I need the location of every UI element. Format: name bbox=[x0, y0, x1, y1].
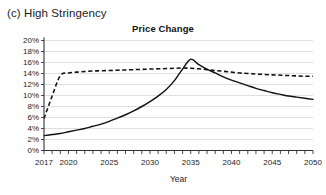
y-axis-tick-labels: 0%2%4%6%8%10%12%14%16%18%20% bbox=[23, 36, 39, 155]
x-axis-title: Year bbox=[170, 174, 187, 184]
y-tick-label: 0% bbox=[27, 146, 39, 155]
y-tick-label: 6% bbox=[27, 113, 39, 122]
gridlines bbox=[41, 41, 313, 151]
x-axis-tick-labels: 20172020202520302035204020452050 bbox=[35, 158, 322, 167]
line-chart: 0%2%4%6%8%10%12%14%16%18%20% 20172020202… bbox=[0, 0, 326, 195]
x-tick-label: 2040 bbox=[223, 158, 241, 167]
x-tick-label: 2050 bbox=[304, 158, 322, 167]
y-tick-label: 14% bbox=[23, 69, 39, 78]
y-tick-label: 8% bbox=[27, 102, 39, 111]
y-tick-label: 4% bbox=[27, 124, 39, 133]
x-tick-label: 2030 bbox=[141, 158, 159, 167]
figure-panel: (c) High Stringency Price Change 0%2%4%6… bbox=[0, 0, 326, 195]
y-tick-label: 20% bbox=[23, 36, 39, 45]
y-tick-label: 2% bbox=[27, 135, 39, 144]
y-tick-label: 16% bbox=[23, 58, 39, 67]
x-tick-label: 2017 bbox=[35, 158, 53, 167]
x-tick-label: 2045 bbox=[263, 158, 281, 167]
x-tick-label: 2020 bbox=[60, 158, 78, 167]
x-tick-label: 2035 bbox=[182, 158, 200, 167]
y-tick-label: 10% bbox=[23, 91, 39, 100]
x-tick-label: 2025 bbox=[100, 158, 118, 167]
series-line-solid bbox=[44, 59, 313, 136]
y-tick-label: 12% bbox=[23, 80, 39, 89]
data-series bbox=[44, 59, 313, 136]
y-tick-label: 18% bbox=[23, 47, 39, 56]
